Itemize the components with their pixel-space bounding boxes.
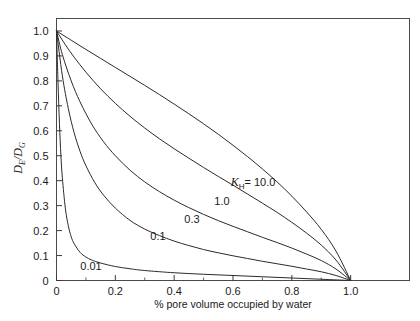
y-tick-label: 0.7 — [33, 100, 48, 112]
y-tick-label: 0.8 — [33, 75, 48, 87]
x-tick-label: 0 — [53, 285, 59, 297]
x-tick-label: 0.2 — [108, 285, 123, 297]
x-tick-label: 0.8 — [284, 285, 299, 297]
x-tick-label: 1.0 — [343, 285, 358, 297]
y-tick-label: 0.2 — [33, 225, 48, 237]
y-axis-title: DE/DG — [11, 142, 27, 175]
y-tick-label: 0.3 — [33, 200, 48, 212]
curve-kh-10p0 — [57, 31, 351, 281]
y-tick-label: 0.6 — [33, 125, 48, 137]
y-tick-label: 0 — [42, 275, 48, 287]
y-axis-title-denominator-sub: G — [18, 142, 27, 148]
y-tick-label: 0.5 — [33, 150, 48, 162]
curve-annotation-1p0: 1.0 — [214, 195, 229, 207]
curve-kh-0p01 — [57, 31, 351, 281]
y-tick-label: 0.4 — [33, 175, 48, 187]
x-tick-label: 0.4 — [167, 285, 182, 297]
x-axis-tick-labels: 00.20.40.60.81.0 — [53, 285, 358, 297]
x-axis-ticks — [57, 275, 351, 281]
curve-annotation-0p3: 0.3 — [184, 213, 199, 225]
y-axis-title-numerator: D — [11, 165, 25, 175]
y-tick-label: 0.1 — [33, 250, 48, 262]
svg-text:KH= 10.0: KH= 10.0 — [230, 175, 276, 191]
curve-annotation-kh: KH= 10.0 — [230, 175, 276, 191]
chart-curves — [57, 31, 351, 281]
chart-canvas: 00.10.20.30.40.50.60.70.80.91.0 00.20.40… — [0, 0, 420, 321]
y-axis-tick-labels: 00.10.20.30.40.50.60.70.80.91.0 — [33, 25, 48, 287]
y-tick-label: 1.0 — [33, 25, 48, 37]
curve-kh-1p0 — [57, 31, 351, 281]
curve-kh-0p3 — [57, 31, 351, 281]
kh-equals-value: = 10.0 — [244, 176, 275, 188]
x-tick-label: 0.6 — [225, 285, 240, 297]
y-tick-label: 0.9 — [33, 50, 48, 62]
x-axis-title: % pore volume occupied by water — [154, 298, 312, 310]
svg-text:DE/DG: DE/DG — [11, 142, 27, 175]
y-axis-title-denominator: D — [11, 148, 25, 158]
curve-annotation-0p1: 0.1 — [150, 230, 165, 242]
curve-annotation-0p01: 0.01 — [80, 260, 101, 272]
curve-kh-0p1 — [57, 31, 351, 281]
chart-figure: 00.10.20.30.40.50.60.70.80.91.0 00.20.40… — [0, 0, 420, 321]
